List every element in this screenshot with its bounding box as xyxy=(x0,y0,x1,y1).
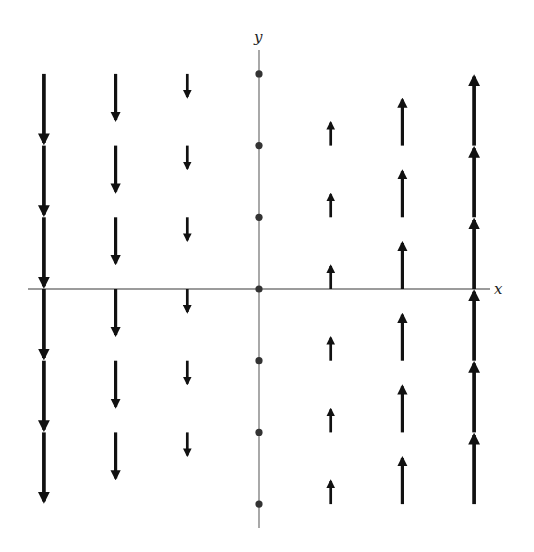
x-axis-label: x xyxy=(494,280,502,298)
zero-vector-dot xyxy=(255,429,262,436)
zero-vector-dot xyxy=(255,214,262,221)
vector-field-diagram: y x xyxy=(0,0,534,552)
zero-vector-dot xyxy=(255,142,262,149)
vector-field-plot xyxy=(0,0,534,552)
zero-vector-dot xyxy=(255,357,262,364)
zero-vector-dot xyxy=(255,70,262,77)
zero-vector-dot xyxy=(255,285,262,292)
zero-vector-dot xyxy=(255,501,262,508)
y-axis-label: y xyxy=(254,28,262,46)
